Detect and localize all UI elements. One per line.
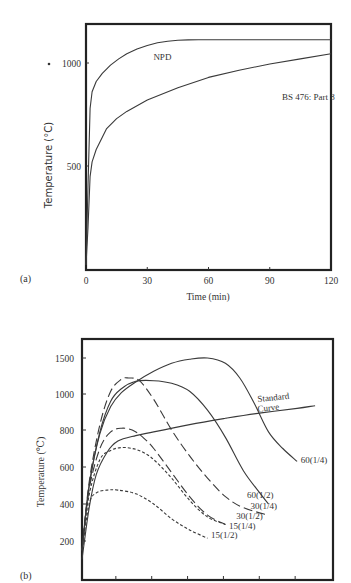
panel-a-chart: Temperature (°C) Time (min) (a) 03060901… <box>20 24 338 303</box>
annotation-60-1-4: 60(1/4) <box>301 455 328 465</box>
panel-b-y-tick-label: 200 <box>60 537 75 547</box>
annotation-bs-476-part-8: BS 476: Part 8 <box>282 92 335 102</box>
annotation-npd: NPD <box>153 52 172 62</box>
annotation-60-1-2: 60(1/2) <box>247 490 274 500</box>
panel-a-x-tick-label: 120 <box>324 276 339 286</box>
panel-a-y-tick-label: 1000 <box>62 59 81 69</box>
panel-a-x-tick-label: 90 <box>265 276 275 286</box>
panel-b-label: (b) <box>20 570 32 582</box>
panel-b-y-tick-label: 400 <box>60 500 75 510</box>
panel-b-y-tick-label: 800 <box>60 426 75 436</box>
annotation-curve: Curve <box>257 402 280 414</box>
panel-a-x-tick-label: 0 <box>84 276 89 286</box>
panel-b-chart: Temperature (℃) (b) 20040060080010001500… <box>20 339 333 582</box>
chart-figure: Temperature (°C) Time (min) (a) 03060901… <box>0 0 351 583</box>
stray-dot-mark <box>48 63 51 66</box>
series-npd-line <box>86 40 331 265</box>
panel-b-y-tick-label: 1500 <box>55 354 74 364</box>
panel-b-y-axis-label: Temperature (℃) <box>35 437 47 508</box>
panel-a-label: (a) <box>20 273 31 285</box>
panel-a-y-tick-label: 500 <box>67 162 82 172</box>
annotation-30-1-4: 30(1/4) <box>251 501 278 511</box>
series-60-1-4-line <box>82 358 297 551</box>
panel-b-y-tick-label: 600 <box>60 463 75 473</box>
panel-a-x-axis-label: Time (min) <box>186 292 229 303</box>
panel-a-frame <box>86 24 331 270</box>
panel-a-x-tick-label: 30 <box>143 276 153 286</box>
panel-b-y-tick-label: 1000 <box>55 390 74 400</box>
series-30-1-2-line <box>82 428 225 550</box>
annotation-15-1-2: 15(1/2) <box>211 530 238 540</box>
series-bs-476-part-8-line <box>86 54 331 265</box>
panel-a-y-axis-label: Temperature (°C) <box>43 122 54 209</box>
annotation-30-1-2: 30(1/2) <box>236 511 263 521</box>
series-15-1-4-line <box>82 448 225 551</box>
panel-a-x-tick-label: 60 <box>204 276 214 286</box>
